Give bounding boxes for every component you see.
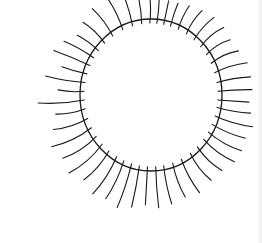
sun-ray [217, 77, 251, 83]
edge-strip [259, 0, 262, 243]
sun-ray [38, 100, 84, 103]
sun-ray [77, 35, 98, 50]
sun-ray [156, 167, 159, 208]
sun-ray [215, 63, 248, 73]
sun-ray [197, 147, 222, 171]
sun-ray [145, 167, 147, 205]
sun-ray [218, 90, 252, 92]
sun-ray [178, 6, 189, 30]
sun-ray [53, 119, 87, 130]
sun-ray [64, 41, 94, 58]
sun-ray [54, 51, 90, 66]
sun-ray [106, 0, 123, 30]
sun-ray [132, 166, 140, 207]
sun-ray [52, 128, 92, 147]
sun-ray [215, 116, 253, 127]
sun-circle [80, 19, 222, 171]
sun-ray [164, 166, 172, 204]
sun-ray [46, 76, 85, 83]
sun-ray [84, 151, 109, 180]
sun-ray [208, 132, 241, 151]
sun-ray [212, 124, 245, 138]
sun-rays [38, 0, 252, 208]
sun-ray [93, 157, 117, 194]
sun-ray [63, 136, 96, 158]
sun-ray [117, 164, 131, 208]
sun-drawing [0, 0, 262, 243]
sun-ray [204, 139, 235, 161]
sun-ray [217, 108, 251, 114]
sun-ray [106, 161, 124, 199]
sun-ray [190, 153, 211, 180]
sun-ray [69, 144, 102, 173]
sun-ray [173, 163, 186, 197]
